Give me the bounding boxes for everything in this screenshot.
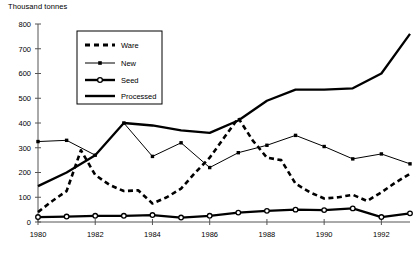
y-tick-label: 500 (18, 94, 31, 103)
x-tick-label: 1984 (144, 230, 161, 239)
x-tick-label: 1980 (30, 230, 47, 239)
legend-label-processed: Processed (121, 92, 156, 101)
chart-container: Thousand tonnes 010020030040050060070080… (0, 0, 418, 260)
series-seed (36, 206, 413, 220)
legend-label-new: New (121, 59, 137, 68)
x-tick-label: 1990 (316, 230, 333, 239)
y-tick-label: 0 (27, 218, 31, 227)
series-new (36, 121, 411, 169)
legend-label-seed: Seed (121, 76, 139, 85)
y-tick-label: 300 (18, 144, 31, 153)
x-tick-label: 1982 (87, 230, 104, 239)
x-axis: 1980198219841986198819901992 (30, 219, 410, 239)
x-tick-label: 1986 (201, 230, 218, 239)
y-tick-label: 700 (18, 45, 31, 54)
chart-plot-area: 0100200300400500600700800 19801982198419… (0, 0, 418, 260)
chart-legend: WareNewSeedProcessed (77, 31, 162, 104)
y-axis: 0100200300400500600700800 (18, 20, 41, 227)
x-tick-label: 1992 (373, 230, 390, 239)
series-ware (38, 118, 410, 212)
y-tick-label: 200 (18, 168, 31, 177)
x-tick-label: 1988 (259, 230, 276, 239)
y-tick-label: 400 (18, 119, 31, 128)
y-tick-label: 600 (18, 69, 31, 78)
y-tick-label: 100 (18, 193, 31, 202)
y-tick-label: 800 (18, 20, 31, 29)
legend-label-ware: Ware (121, 41, 139, 50)
